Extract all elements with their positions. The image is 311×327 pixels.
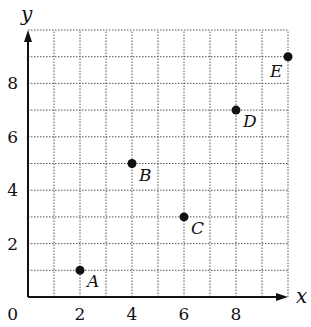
x-tick-label: 6 xyxy=(179,304,190,324)
data-point-c xyxy=(180,212,189,221)
point-label-e: E xyxy=(269,61,283,81)
data-point-a xyxy=(76,266,85,275)
y-axis-arrow-icon xyxy=(24,30,32,42)
y-tick-label: 4 xyxy=(7,180,18,200)
y-axis-label: y xyxy=(20,2,33,26)
y-tick-label: 2 xyxy=(7,234,18,254)
point-label-b: B xyxy=(138,165,152,185)
data-point-b xyxy=(128,159,137,168)
point-label-c: C xyxy=(191,218,204,238)
x-tick-label: 2 xyxy=(75,304,86,324)
axes: xy xyxy=(20,2,307,308)
y-tick-label: 8 xyxy=(7,73,18,93)
x-tick-label: 8 xyxy=(231,304,242,324)
data-point-d xyxy=(232,106,241,115)
x-axis-arrow-icon xyxy=(276,293,288,301)
tick-labels: 246824680 xyxy=(7,73,241,324)
data-points: ABCDE xyxy=(76,52,293,291)
x-tick-label: 4 xyxy=(127,304,138,324)
y-tick-label: 6 xyxy=(7,127,18,147)
grid-lines xyxy=(28,30,288,297)
point-label-d: D xyxy=(242,111,257,131)
data-point-e xyxy=(284,52,293,61)
point-label-a: A xyxy=(85,271,99,291)
scatter-chart: xy 246824680 ABCDE xyxy=(0,0,311,327)
origin-label: 0 xyxy=(7,304,18,324)
x-axis-label: x xyxy=(296,284,307,308)
